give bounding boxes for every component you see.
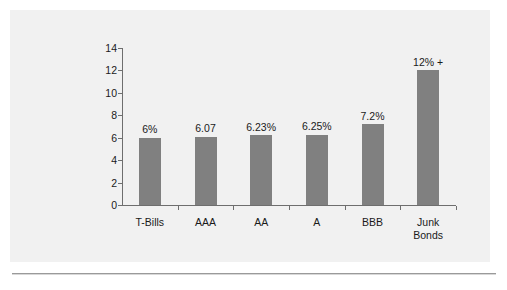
x-axis-category-label: AA — [254, 216, 268, 229]
x-axis-category-label: Junk Bonds — [413, 216, 443, 242]
bottom-divider-shadow — [12, 274, 496, 275]
y-axis-tick-label: 12 — [105, 65, 117, 76]
x-axis-category-label: BBB — [362, 216, 383, 229]
x-axis-tick-mark — [400, 206, 401, 210]
y-axis-tick-label: 2 — [111, 177, 117, 188]
y-axis-tick-label: 6 — [111, 132, 117, 143]
x-axis-category-label: A — [313, 216, 320, 229]
bar-value-label: 6.23% — [246, 122, 276, 133]
chart-panel: 02468101214 6%6.076.23%6.25%7.2%12% + T-… — [10, 10, 490, 262]
bar-value-label: 7.2% — [361, 111, 385, 122]
x-axis-tick-mark — [289, 206, 290, 210]
y-axis-tick-label: 14 — [105, 43, 117, 54]
x-axis-tick-mark — [233, 206, 234, 210]
bar: 6.07 — [195, 137, 217, 205]
y-axis-tick-mark — [118, 70, 122, 71]
y-axis-tick-mark — [118, 160, 122, 161]
bar-value-label: 6.07 — [195, 123, 215, 134]
x-axis-tick-mark — [178, 206, 179, 210]
y-axis-tick-mark — [118, 93, 122, 94]
y-axis-tick-mark — [118, 115, 122, 116]
y-axis-tick-mark — [118, 138, 122, 139]
bar: 12% + — [417, 70, 439, 205]
y-axis-tick-label: 4 — [111, 155, 117, 166]
bar: 6.25% — [306, 135, 328, 205]
bar-value-label: 6% — [142, 124, 157, 135]
x-axis-category-label: T-Bills — [136, 216, 165, 229]
bar: 6.23% — [250, 135, 272, 205]
bar-value-label: 12% + — [413, 57, 443, 68]
plot-area: 02468101214 6%6.076.23%6.25%7.2%12% + T-… — [122, 40, 470, 215]
y-axis-tick-label: 8 — [111, 110, 117, 121]
x-axis-tick-mark — [345, 206, 346, 210]
x-axis-category-label: AAA — [195, 216, 216, 229]
y-axis-line — [122, 48, 123, 205]
y-axis-tick-mark — [118, 48, 122, 49]
bar: 6% — [139, 138, 161, 205]
bar: 7.2% — [362, 124, 384, 205]
y-axis-tick-label: 10 — [105, 88, 117, 99]
bar-value-label: 6.25% — [302, 121, 332, 132]
y-axis-tick-mark — [118, 183, 122, 184]
x-axis-tick-mark — [456, 206, 457, 210]
y-axis-tick-mark — [118, 205, 122, 206]
y-axis-tick-label: 0 — [111, 200, 117, 211]
